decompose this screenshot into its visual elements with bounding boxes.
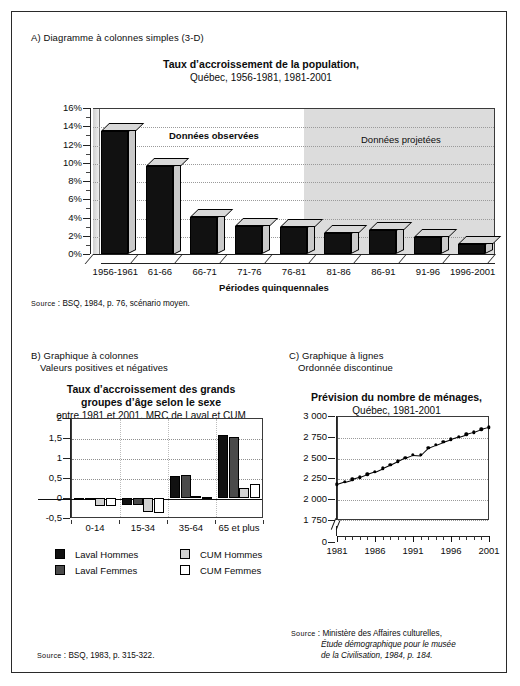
chart-c-y-tick (328, 458, 335, 459)
chart-a-y-label: 12% (63, 139, 82, 150)
section-a-label: A) Diagramme à colonnes simples (3-D) (31, 32, 491, 44)
chart-a-x-label: 76-81 (282, 266, 306, 277)
chart-b-x-tick (71, 520, 72, 524)
chart-c-plot: 01 7502 0002 2502 5002 7503 000 19811986… (289, 410, 504, 540)
chart-b-y-label: 0,5 (49, 472, 62, 483)
chart-c-x-tick (421, 536, 422, 540)
chart-c-x-label: 1991 (402, 545, 423, 556)
source-a-keyword: Source (31, 299, 56, 308)
legend-item: CUM Femmes (180, 565, 305, 576)
data-point (480, 428, 483, 431)
figure-page: A) Diagramme à colonnes simples (3-D) Ta… (0, 0, 520, 686)
bar (133, 498, 143, 505)
chart-c-x-tick (390, 536, 391, 540)
chart-b-title-line1: Taux d’accroissement des grands (31, 383, 271, 396)
bar (239, 488, 249, 498)
bar-side (128, 127, 136, 254)
chart-a-floor (93, 254, 495, 264)
chart-a-y-label: 0% (68, 248, 82, 259)
bar (181, 475, 191, 498)
chart-c-line-series (337, 416, 489, 520)
section-a: A) Diagramme à colonnes simples (3-D) Ta… (31, 32, 491, 84)
section-b: B) Graphique à colonnes Valeurs positive… (31, 350, 271, 422)
data-point (366, 473, 369, 476)
bar (143, 498, 153, 512)
bar-side (217, 213, 225, 254)
chart-b-y-label: 1,5 (49, 432, 62, 443)
chart-c-x-label: 1996 (440, 545, 461, 556)
bar-face (414, 237, 441, 254)
bar (218, 435, 228, 498)
chart-c-x-tick (466, 536, 467, 540)
bar-face (369, 230, 396, 254)
data-point (426, 446, 429, 449)
chart-a-y-label: 2% (68, 230, 82, 241)
legend-swatch (180, 549, 190, 559)
data-point (442, 440, 445, 443)
chart-b-y-label: -0,5 (46, 512, 62, 523)
bar (106, 498, 116, 506)
bar (250, 484, 260, 498)
chart-c-x-tick (367, 536, 368, 540)
bar (458, 236, 493, 254)
bar (146, 158, 181, 255)
legend-label: CUM Hommes (200, 549, 262, 560)
legend-item: CUM Hommes (180, 549, 305, 560)
bar-face (235, 226, 262, 254)
data-point (457, 435, 460, 438)
legend-item: Laval Femmes (55, 565, 180, 576)
chart-b-x-tick (215, 520, 216, 524)
chart-a-y-tick (83, 254, 90, 255)
chart-c-x-tick (345, 536, 346, 540)
chart-c-y-tick (328, 542, 335, 543)
chart-b-x-labels: 0-1415-3435-6465 et plus (71, 520, 263, 534)
bar-top (324, 225, 367, 233)
chart-a-y-label: 8% (68, 175, 82, 186)
legend-label: Laval Hommes (75, 549, 138, 560)
bar (154, 498, 164, 513)
chart-c-x-tick (428, 536, 429, 540)
bar (280, 219, 315, 254)
chart-a-x-label: 66-71 (193, 266, 217, 277)
chart-c-x-tick (383, 536, 384, 540)
source-c-line3: de la Civilisation, 1984, p. 184. (291, 650, 503, 661)
chart-a-x-label: 1956-1961 (93, 266, 138, 277)
chart-a-x-label: 91-96 (416, 266, 440, 277)
chart-a-y-tick (83, 163, 90, 164)
bar-face (101, 131, 128, 254)
label-donnees-projetees: Données projetées (361, 134, 441, 145)
chart-c-x-tick (481, 536, 482, 540)
section-b-label-line1: B) Graphique à colonnes (31, 350, 271, 362)
data-point (404, 456, 407, 459)
bar-face (146, 166, 173, 255)
bar (170, 476, 180, 498)
chart-a-title: Taux d’accroissement de la population, (31, 58, 491, 71)
chart-b-y-tick (63, 458, 70, 459)
data-point (350, 478, 353, 481)
source-c: Source : Ministère des Affaires culturel… (291, 628, 503, 661)
data-point (472, 431, 475, 434)
chart-a-x-label: 81-86 (327, 266, 351, 277)
bar (202, 497, 212, 499)
chart-b-x-label: 0-14 (85, 522, 104, 533)
bar-top (146, 158, 189, 166)
legend-item: Laval Hommes (55, 549, 180, 560)
section-c: C) Graphique à lignes Ordonnée discontin… (289, 350, 504, 417)
section-c-label-line2: Ordonnée discontinue (289, 362, 504, 374)
chart-c-x-tick (436, 536, 437, 540)
chart-a-y-tick (83, 108, 90, 109)
chart-c-y-label: 2 500 (303, 452, 327, 463)
chart-b-x-label: 65 et plus (218, 522, 259, 533)
data-point (419, 453, 422, 456)
chart-c-x-tick (443, 536, 444, 540)
chart-a-y-label: 10% (63, 157, 82, 168)
chart-a-y-label: 16% (63, 102, 82, 113)
bar-side (262, 222, 270, 254)
chart-a-y-tick (83, 236, 90, 237)
chart-a-y-tick (83, 218, 90, 219)
chart-c-x-tick (352, 536, 353, 540)
chart-c-x-tick (451, 536, 452, 542)
bar-face (280, 227, 307, 254)
data-point (335, 483, 338, 486)
bar (74, 498, 84, 500)
